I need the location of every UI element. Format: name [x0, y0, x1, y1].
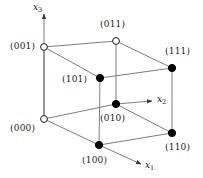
cube-vertex-figure: x3x2x1(001)(011)(111)(101)(000)(010)(110…	[0, 0, 203, 178]
vertex-label-000: (000)	[10, 123, 35, 133]
vertex-000-open	[41, 116, 48, 123]
vertex-label-010: (010)	[100, 113, 125, 123]
x1-axis-label: x1	[145, 160, 154, 170]
edge-100-110	[99, 133, 172, 145]
vertex-110-filled	[168, 129, 175, 136]
vertex-100-filled	[95, 141, 102, 148]
cube-vertices	[41, 38, 176, 149]
x2-axis-label: x2	[157, 94, 166, 104]
edge-101-100	[99, 78, 100, 145]
vertex-011-open	[113, 38, 120, 45]
vertex-label-101: (101)	[62, 74, 87, 84]
edge-001-011	[44, 41, 116, 47]
edge-011-111	[116, 41, 172, 68]
vertex-label-111: (111)	[165, 46, 190, 56]
edge-101-111	[100, 68, 172, 78]
edge-000-100	[44, 119, 99, 145]
cube-edges	[44, 41, 172, 145]
x3-axis-label: x3	[33, 2, 42, 12]
vertex-label-100: (100)	[82, 155, 107, 165]
x2-axis	[116, 101, 152, 104]
vertex-label-110: (110)	[165, 142, 190, 152]
vertex-label-011: (011)	[100, 19, 125, 29]
vertex-111-filled	[168, 64, 175, 71]
vertex-010-filled	[112, 100, 119, 107]
vertex-001-open	[41, 44, 48, 51]
vertex-101-filled	[96, 74, 103, 81]
vertex-label-001: (001)	[10, 41, 35, 51]
